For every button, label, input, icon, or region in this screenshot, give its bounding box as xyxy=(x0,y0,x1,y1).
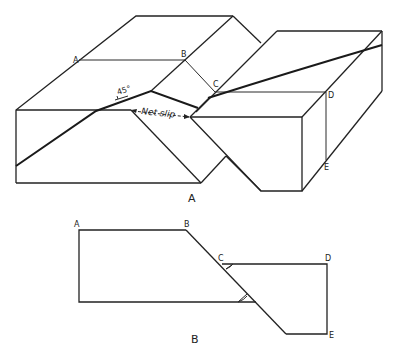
label-d-bottom: D xyxy=(325,254,331,263)
caption-a: A xyxy=(188,192,196,205)
label-a-bottom: A xyxy=(74,220,80,229)
dip-angle-label: 45° xyxy=(116,84,132,97)
caption-b: B xyxy=(191,333,199,346)
bed-line-left xyxy=(16,91,198,166)
label-b-top: B xyxy=(181,50,187,59)
bed-line-right xyxy=(208,45,382,98)
left-block xyxy=(16,16,261,183)
block-diagram-a: A B C D E 45° Net slip A xyxy=(16,16,382,205)
cross-section-b: A B C D E B xyxy=(74,220,334,346)
fault-diagram: A B C D E 45° Net slip A A B C D E B xyxy=(0,0,399,358)
right-block xyxy=(190,31,382,191)
label-e-bottom: E xyxy=(329,331,334,340)
label-c-top: C xyxy=(213,80,219,89)
label-b-bottom: B xyxy=(184,220,190,229)
label-c-bottom: C xyxy=(218,254,224,263)
net-slip-label: Net slip xyxy=(141,106,176,120)
label-a-top: A xyxy=(73,56,79,65)
label-e-top: E xyxy=(324,163,329,172)
label-d-top: D xyxy=(328,91,334,100)
